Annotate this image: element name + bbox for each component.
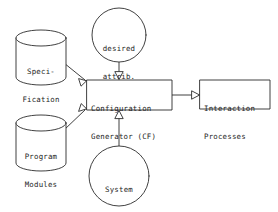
edge-program-modules-to-generator xyxy=(64,104,87,130)
edge-specification-to-generator xyxy=(64,63,87,86)
node-desired-attrib-shape xyxy=(92,8,146,62)
diagram-canvas: Speci- Fication Program Modules desired … xyxy=(0,0,278,212)
edge-system-descript-to-generator xyxy=(115,110,123,146)
node-configuration-generator-shape xyxy=(87,80,172,110)
diagram-vector-layer xyxy=(0,0,278,212)
node-program-modules-shape xyxy=(16,115,66,171)
node-interaction-processes-shape xyxy=(200,80,270,109)
edge-desired-attrib-to-generator xyxy=(115,62,123,80)
node-specification-shape xyxy=(16,30,66,85)
node-system-descript-shape xyxy=(89,146,149,206)
edge-generator-to-interaction-processes xyxy=(172,91,200,99)
